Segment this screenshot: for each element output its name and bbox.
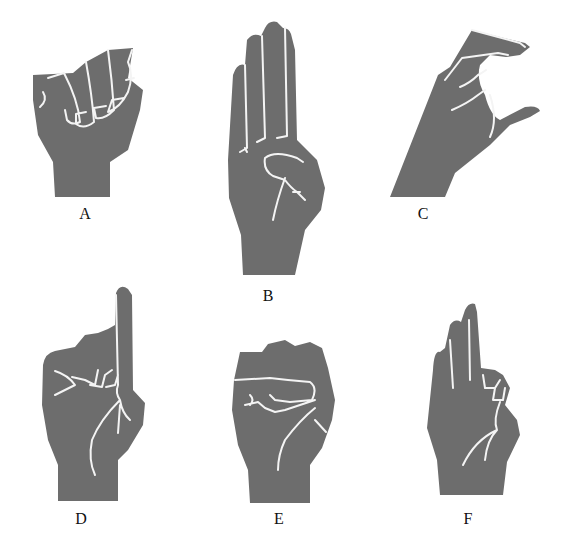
hand-e-icon xyxy=(230,340,345,505)
hand-sign-c xyxy=(390,25,550,200)
hand-a-icon xyxy=(28,40,148,200)
label-a: A xyxy=(70,205,100,223)
hand-b-icon xyxy=(225,20,340,280)
hand-sign-e xyxy=(230,340,345,505)
hand-sign-a xyxy=(28,40,148,200)
hand-f-icon xyxy=(425,290,525,500)
hand-sign-f xyxy=(425,290,525,500)
hand-d-icon xyxy=(40,285,150,505)
label-c: C xyxy=(408,205,438,223)
hand-sign-d xyxy=(40,285,150,505)
label-f: F xyxy=(453,510,483,528)
label-d: D xyxy=(66,510,96,528)
hand-c-icon xyxy=(390,25,550,200)
hand-sign-b xyxy=(225,20,340,280)
label-b: B xyxy=(253,287,283,305)
label-e: E xyxy=(264,510,294,528)
